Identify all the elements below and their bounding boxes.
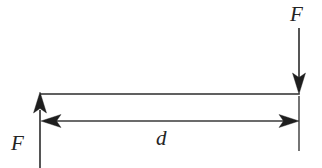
dimension-line-d: [41, 115, 299, 128]
force-couple-diagram: F F d: [0, 0, 322, 168]
force-arrow-right: [293, 28, 306, 94]
force-arrow-left: [34, 92, 47, 168]
force-label-top: F: [290, 4, 303, 25]
force-label-bottom: F: [11, 133, 24, 154]
force-arrow-left-head: [34, 92, 47, 113]
distance-label: d: [156, 128, 167, 149]
